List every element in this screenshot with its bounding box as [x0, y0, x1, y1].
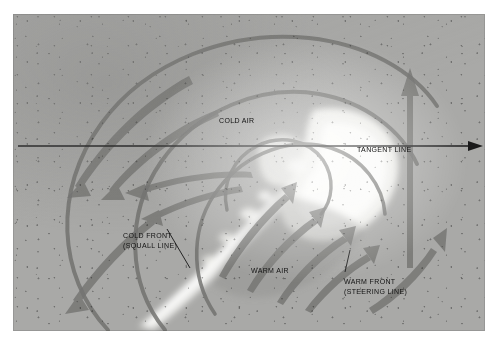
satellite-photograph: COLD AIR TANGENT LINE COLD FRONT (SQUALL… [13, 14, 485, 331]
screenshot-canvas: COLD AIR TANGENT LINE COLD FRONT (SQUALL… [0, 0, 498, 347]
label-cold-air: COLD AIR [219, 116, 254, 126]
label-warm-front: WARM FRONT (STEERING LINE) [344, 277, 407, 296]
label-warm-front-line1: WARM FRONT [344, 277, 407, 287]
label-cold-front: COLD FRONT (SQUALL LINE) [123, 231, 177, 250]
label-warm-front-line2: (STEERING LINE) [344, 287, 407, 297]
label-cold-front-line1: COLD FRONT [123, 231, 177, 241]
label-cold-front-line2: (SQUALL LINE) [123, 241, 177, 251]
label-tangent-line: TANGENT LINE [357, 145, 412, 155]
label-warm-air: WARM AIR [251, 266, 289, 276]
film-grain [13, 14, 485, 331]
